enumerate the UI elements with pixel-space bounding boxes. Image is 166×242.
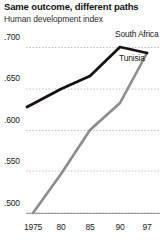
ytick-label-700: .700 [4,32,20,42]
xtick-label-80: 80 [51,222,71,232]
ytick-label-500: .500 [4,198,20,208]
series-label-south-africa: South Africa [115,29,158,39]
ytick-label-650: .650 [4,73,20,83]
xtick-label-90: 90 [110,222,130,232]
xtick-label-85: 85 [80,222,100,232]
series-label-tunisia: Tunisia [119,53,145,63]
xtick-label-1975: 1975 [20,222,46,232]
xtick-label-97: 97 [137,222,157,232]
chart-figure: Same outcome, different paths Human deve… [0,0,166,242]
ytick-label-550: .550 [4,156,20,166]
ytick-label-600: .600 [4,115,20,125]
